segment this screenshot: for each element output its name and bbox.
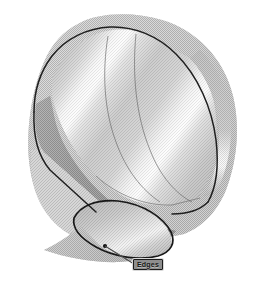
edges-callout-label[interactable]: Edges: [133, 259, 163, 270]
figure-canvas: Edges: [0, 0, 256, 293]
cad-model-viewport: [0, 0, 256, 293]
edges-callout-text: Edges: [137, 261, 159, 268]
